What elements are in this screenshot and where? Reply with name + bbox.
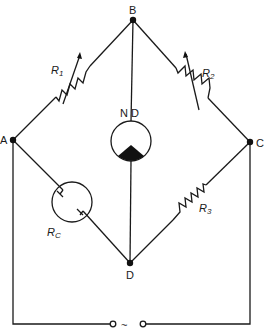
r3-label: R3 xyxy=(199,202,212,216)
null-detector-indicator-icon xyxy=(118,145,144,161)
branch-b-c xyxy=(133,20,250,142)
source-terminal-left xyxy=(110,321,116,327)
ac-source-symbol: ~ xyxy=(121,319,127,331)
rc-label: RC xyxy=(47,226,61,240)
r1-variable-arrow-icon xyxy=(77,52,82,59)
wheatstone-bridge-diagram: R1 R2 R3 RC N D ~ xyxy=(0,0,267,332)
branch-a-b xyxy=(13,20,133,140)
node-a-label: A xyxy=(0,134,8,146)
null-detector-label: N D xyxy=(120,107,139,119)
node-b-label: B xyxy=(129,4,136,16)
node-c-label: C xyxy=(256,137,264,149)
r2-label: R2 xyxy=(202,67,215,81)
node-a xyxy=(10,137,16,143)
node-c xyxy=(247,139,253,145)
branch-c-d xyxy=(130,142,250,263)
rc-cell-circle xyxy=(52,182,92,222)
source-terminal-right xyxy=(140,321,146,327)
branch-a-d xyxy=(13,140,130,263)
node-d-label: D xyxy=(126,269,134,281)
r2-variable-arrow-icon xyxy=(183,51,188,58)
node-d xyxy=(127,260,133,266)
r1-label: R1 xyxy=(51,64,63,78)
rc-electrode-1 xyxy=(60,190,63,194)
branch-b-d xyxy=(111,20,151,263)
node-b xyxy=(130,17,136,23)
